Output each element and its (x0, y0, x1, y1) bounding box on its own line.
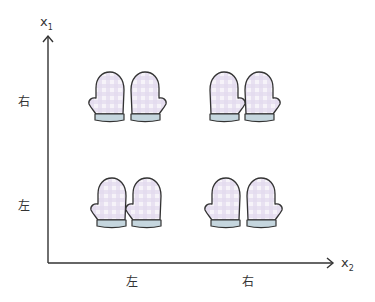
mitten-icon (91, 178, 126, 228)
mitten-icon (131, 72, 166, 122)
x-category-left: 左 (126, 272, 138, 289)
y-category-bottom: 左 (18, 196, 30, 213)
x-axis (48, 258, 333, 268)
mitten-pair-bottom-left (91, 178, 161, 228)
x-axis-title: x2 (341, 255, 354, 273)
mitten-icon (126, 178, 161, 228)
mitten-pair-bottom-right (205, 178, 282, 228)
mitten-icon (210, 72, 245, 122)
mitten-icon (89, 72, 124, 122)
mitten-pair-top-right (210, 72, 280, 122)
y-axis-title: x1 (40, 14, 53, 32)
mitten-icon (247, 178, 282, 228)
mitten-icon (245, 72, 280, 122)
mitten-diagram (0, 0, 375, 302)
y-category-top: 右 (18, 92, 30, 109)
mitten-icon (205, 178, 240, 228)
x-category-right: 右 (242, 272, 254, 289)
y-axis (43, 36, 53, 263)
mitten-pair-top-left (89, 72, 166, 122)
